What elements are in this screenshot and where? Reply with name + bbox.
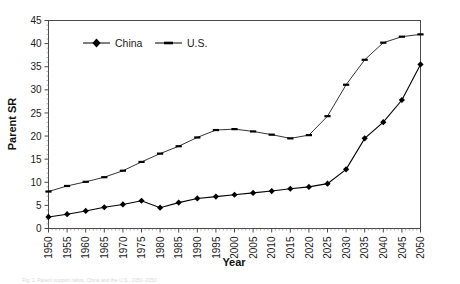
data-point-marker [269, 188, 275, 194]
x-tick-label: 2030 [341, 236, 352, 259]
x-tick-label: 1985 [173, 236, 184, 259]
figure-caption: Fig. 1. Parent support ratios, China and… [22, 277, 158, 284]
data-point-marker [138, 198, 144, 204]
y-tick-label: 15 [30, 154, 42, 165]
series-line-u-s [49, 34, 421, 191]
data-point-marker [306, 184, 312, 190]
y-tick-label: 45 [30, 15, 42, 26]
data-point-marker [176, 200, 182, 206]
x-tick-label: 1960 [80, 236, 91, 259]
x-axis: 1950195519601965197019751980198519901995… [43, 229, 426, 259]
legend-label-china: China [115, 37, 143, 49]
y-tick-label: 10 [30, 177, 42, 188]
x-tick-label: 2010 [266, 236, 277, 259]
data-point-marker [231, 192, 237, 198]
data-point-marker [120, 201, 126, 207]
x-tick-label: 2035 [359, 236, 370, 259]
data-point-marker [417, 61, 423, 67]
y-tick-label: 35 [30, 61, 42, 72]
data-series-group [45, 34, 423, 220]
x-tick-label: 2005 [248, 236, 259, 259]
x-tick-label: 1980 [155, 236, 166, 259]
x-tick-label: 2020 [304, 236, 315, 259]
x-tick-label: 2045 [397, 236, 408, 259]
chart-legend: China U.S. [83, 37, 207, 49]
y-tick-label: 20 [30, 131, 42, 142]
series-u-s [45, 34, 423, 191]
figure-container: 051015202530354045 195019551960196519701… [0, 0, 460, 284]
legend-label-us: U.S. [187, 37, 207, 49]
x-tick-label: 1950 [43, 236, 54, 259]
data-point-marker [250, 190, 256, 196]
data-point-marker [45, 214, 51, 220]
series-china [45, 61, 423, 220]
data-point-marker [157, 205, 163, 211]
legend-item-us: U.S. [155, 37, 207, 49]
diamond-marker-icon [92, 39, 100, 48]
x-tick-label: 1975 [136, 236, 147, 259]
x-tick-label: 1955 [62, 236, 73, 259]
data-point-marker [213, 194, 219, 200]
parent-sr-line-chart: 051015202530354045 195019551960196519701… [0, 0, 460, 284]
x-tick-label: 1990 [192, 236, 203, 259]
x-tick-label: 2040 [378, 236, 389, 259]
y-tick-label: 0 [36, 223, 42, 234]
y-tick-label: 30 [30, 84, 42, 95]
y-tick-label: 40 [30, 38, 42, 49]
y-axis: 051015202530354045 [30, 15, 48, 234]
x-tick-label: 2015 [285, 236, 296, 259]
data-point-marker [101, 204, 107, 210]
x-tick-label: 2025 [322, 236, 333, 259]
x-tick-label: 1965 [99, 236, 110, 259]
data-point-marker [64, 211, 70, 217]
data-point-marker [83, 208, 89, 214]
x-tick-label: 2050 [415, 236, 426, 259]
x-tick-label: 1970 [118, 236, 129, 259]
x-axis-title: Year [222, 256, 246, 268]
data-point-marker [287, 186, 293, 192]
data-point-marker [194, 195, 200, 201]
y-axis-title: Parent SR [6, 98, 18, 151]
y-tick-label: 25 [30, 108, 42, 119]
y-tick-label: 5 [36, 200, 42, 211]
legend-item-china: China [83, 37, 143, 49]
x-tick-label: 1995 [211, 236, 222, 259]
